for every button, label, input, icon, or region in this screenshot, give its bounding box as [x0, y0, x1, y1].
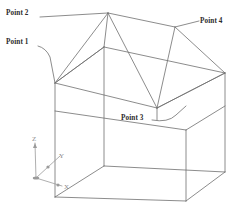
label-point-3: Point 3	[121, 114, 143, 122]
building-wireframe	[55, 13, 225, 201]
axis-z-line	[35, 143, 36, 178]
eave-line-right	[157, 73, 225, 108]
axis-triad	[35, 143, 62, 186]
axis-markers	[33, 143, 60, 187]
wireframe-drawing	[0, 0, 241, 211]
leader-point4	[175, 21, 199, 27]
axis-label-z: Z	[32, 135, 36, 143]
base-edge-back	[104, 166, 225, 172]
leader-point2	[40, 13, 108, 17]
figure-canvas: Point 1 Point 2 Point 3 Point 4 X Y Z	[0, 0, 241, 211]
axis-y-arrow	[46, 165, 49, 168]
axis-z-arrow	[33, 143, 37, 148]
base-edge-front	[55, 197, 186, 201]
label-point-2: Point 2	[6, 9, 28, 17]
roof-edge-front-left	[55, 13, 108, 83]
axis-label-x: X	[64, 183, 69, 191]
roof-edge-back-right	[175, 27, 225, 73]
hip-rafter-right	[157, 27, 175, 108]
base-edge-right	[186, 172, 225, 201]
axis-origin-dot	[33, 177, 39, 180]
wall-band-right	[186, 106, 225, 130]
roof-edge-front-right	[108, 13, 157, 108]
base-edge-left	[55, 166, 104, 197]
label-point-1: Point 1	[6, 38, 28, 46]
roof-ridge-line	[108, 13, 175, 27]
axis-label-y: Y	[59, 152, 64, 160]
eave-line-back	[104, 47, 225, 73]
axis-x-arrow	[56, 183, 59, 186]
label-point-4: Point 4	[200, 17, 222, 25]
leader-point1	[38, 46, 55, 83]
eave-line-front	[55, 83, 157, 108]
eave-line-left-top	[55, 47, 104, 83]
